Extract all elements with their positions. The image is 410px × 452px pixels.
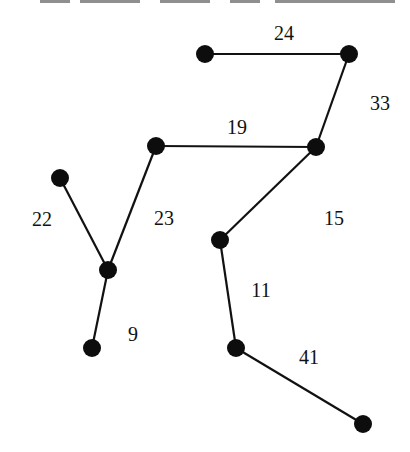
edge-weight-label: 15	[324, 208, 344, 228]
edge-B-C	[316, 54, 349, 147]
edge-weight-label: 19	[227, 117, 247, 137]
edge-H-I	[220, 240, 236, 348]
edge-weight-label: 41	[299, 347, 319, 367]
edge-weight-label: 23	[154, 208, 174, 228]
edge-F-G	[92, 270, 108, 348]
node-J	[354, 415, 372, 433]
edge-weight-label: 9	[128, 324, 138, 344]
node-G	[83, 339, 101, 357]
edge-weight-label: 33	[370, 93, 390, 113]
edge-D-F	[108, 146, 156, 270]
node-C	[307, 138, 325, 156]
node-A	[196, 45, 214, 63]
edge-E-F	[60, 178, 108, 270]
node-B	[340, 45, 358, 63]
edge-weight-label: 22	[32, 209, 52, 229]
node-I	[227, 339, 245, 357]
node-E	[51, 169, 69, 187]
edge-weight-label: 11	[251, 280, 270, 300]
tree-diagram	[0, 0, 410, 452]
edge-C-H	[220, 147, 316, 240]
node-H	[211, 231, 229, 249]
edge-weight-label: 24	[274, 23, 294, 43]
node-D	[147, 137, 165, 155]
edge-D-C	[156, 146, 316, 147]
node-F	[99, 261, 117, 279]
